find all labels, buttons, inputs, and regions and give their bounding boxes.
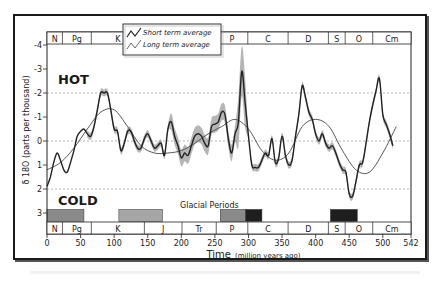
- period-label-d: D: [305, 35, 311, 44]
- period-label-c: C: [265, 35, 271, 44]
- period-label-j: J: [161, 225, 164, 234]
- x-axis-units: (million years ago): [235, 252, 301, 260]
- glacial-periods-title: Glacial Periods: [180, 201, 239, 210]
- glacial-bar: [330, 209, 357, 221]
- x-axis-ticks: 050100150200250300350400450500542: [44, 234, 418, 248]
- x-axis-title: Time: [206, 249, 231, 260]
- period-label-n: N: [52, 225, 58, 234]
- period-label-cm: Cm: [385, 35, 399, 44]
- x-tick-label: 100: [107, 239, 122, 248]
- x-tick-label: 50: [75, 239, 85, 248]
- y-tick-label: -1: [34, 113, 42, 122]
- glacial-bar: [220, 209, 246, 221]
- y-tick-label: 2: [37, 185, 42, 194]
- period-label-s: S: [334, 35, 339, 44]
- x-tick-label: 250: [207, 239, 222, 248]
- period-label-p: P: [230, 225, 235, 234]
- x-tick-label: 200: [174, 239, 189, 248]
- period-label-d: D: [305, 225, 311, 234]
- plot-svg: NPgKJTrPCDSOCmNPgKJTrPCDSOCm 05010015020…: [0, 0, 442, 284]
- cold-label: COLD: [58, 193, 98, 208]
- y-axis-title: δ 18O (parts per thousand): [22, 75, 31, 184]
- faint-caption: [30, 268, 420, 278]
- glacial-bar: [246, 209, 262, 221]
- period-label-k: K: [115, 35, 121, 44]
- y-axis-ticks: -4-3-2-10123: [34, 41, 47, 218]
- y-tick-label: 0: [37, 137, 42, 146]
- y-tick-label: 1: [37, 161, 42, 170]
- short-term-average-path: [47, 71, 393, 197]
- glacial-bar: [47, 209, 84, 221]
- x-tick-label: 542: [403, 239, 418, 248]
- x-tick-label: 150: [140, 239, 155, 248]
- glacial-bar: [119, 209, 163, 221]
- period-label-pg: Pg: [72, 225, 82, 234]
- legend: Short term average Long term average: [123, 24, 223, 57]
- delta-o18-climate-chart: NPgKJTrPCDSOCmNPgKJTrPCDSOCm 05010015020…: [0, 0, 442, 284]
- x-tick-label: 0: [44, 239, 49, 248]
- y-tick-label: -4: [34, 41, 42, 50]
- period-label-c: C: [265, 225, 271, 234]
- y-tick-label: 3: [37, 209, 42, 218]
- period-label-n: N: [52, 35, 58, 44]
- period-label-s: S: [334, 225, 339, 234]
- x-tick-label: 300: [241, 239, 256, 248]
- x-tick-label: 500: [375, 239, 390, 248]
- glacial-periods-bars: [47, 209, 357, 221]
- x-tick-label: 450: [342, 239, 357, 248]
- period-label-k: K: [115, 225, 121, 234]
- short-term-average-line: [47, 71, 393, 197]
- period-label-p: P: [230, 35, 235, 44]
- y-tick-label: -2: [34, 89, 42, 98]
- period-label-cm: Cm: [385, 225, 399, 234]
- period-label-tr: Tr: [195, 225, 204, 234]
- x-tick-label: 400: [308, 239, 323, 248]
- period-label-o: O: [356, 225, 362, 234]
- y-tick-label: -3: [34, 65, 42, 74]
- period-label-o: O: [356, 35, 362, 44]
- period-label-pg: Pg: [72, 35, 82, 44]
- x-tick-label: 350: [274, 239, 289, 248]
- legend-long-term-label: Long term average: [143, 41, 210, 49]
- hot-label: HOT: [58, 72, 89, 87]
- legend-short-term-label: Short term average: [143, 29, 212, 37]
